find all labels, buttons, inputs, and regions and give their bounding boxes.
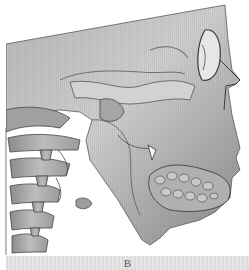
- skull-illustration: [0, 0, 249, 255]
- panel-label: B: [124, 256, 131, 270]
- skull-base: [6, 107, 70, 132]
- cervical-spine: [8, 134, 80, 253]
- panel-label-bar: B: [6, 256, 249, 270]
- ct-skull-render: [0, 0, 249, 255]
